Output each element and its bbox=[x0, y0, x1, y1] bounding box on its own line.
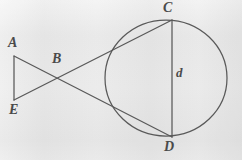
segment-E-to-C bbox=[14, 20, 172, 100]
geometry-figure: A B C D E d bbox=[0, 0, 242, 160]
point-label-C: C bbox=[163, 1, 172, 15]
diagram-canvas bbox=[0, 0, 242, 160]
point-label-E: E bbox=[9, 103, 18, 117]
measure-label-d: d bbox=[176, 66, 183, 79]
point-label-D: D bbox=[164, 140, 174, 154]
point-label-B: B bbox=[52, 52, 61, 66]
main-circle bbox=[105, 20, 227, 136]
point-label-A: A bbox=[8, 36, 17, 50]
segment-A-to-D bbox=[14, 56, 172, 137]
